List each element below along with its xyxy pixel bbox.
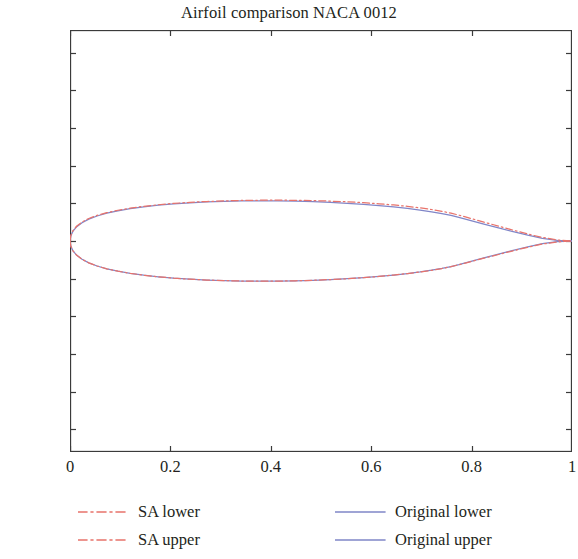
series-layer [70, 200, 572, 281]
x-tick-label: 0.4 [231, 459, 311, 476]
legend-label: Original lower [395, 500, 492, 524]
chart-legend: SA lower SA upper Original lower Origina… [0, 496, 578, 559]
plot-area [70, 30, 572, 452]
airfoil-comparison-figure: Airfoil comparison NACA 0012 0.250.20.15… [0, 0, 578, 559]
legend-label: Original upper [395, 528, 492, 552]
legend-line-sample-original-lower [335, 498, 387, 526]
legend-label: SA lower [138, 500, 200, 524]
legend-label: SA upper [138, 528, 200, 552]
x-tick-label: 1 [532, 459, 578, 476]
legend-line-sample-sa-upper [78, 526, 130, 554]
x-tick-label: 0.6 [331, 459, 411, 476]
chart-title: Airfoil comparison NACA 0012 [0, 3, 578, 23]
tick-marks [70, 30, 572, 452]
x-tick-label: 0.8 [432, 459, 512, 476]
plot-canvas [70, 30, 572, 452]
axes-frame [71, 31, 572, 452]
legend-line-sample-sa-lower [78, 498, 130, 526]
x-tick-label: 0.2 [130, 459, 210, 476]
x-tick-label: 0 [30, 459, 110, 476]
legend-line-sample-original-upper [335, 526, 387, 554]
